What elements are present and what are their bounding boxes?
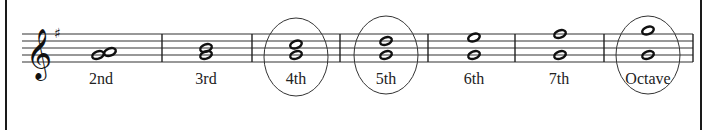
label-7th: 7th xyxy=(549,70,569,87)
interval-staff: 𝄞 ♯ 2nd 3rd 4th 5th 6th 7th Octave xyxy=(0,0,714,130)
label-2nd: 2nd xyxy=(89,70,113,87)
treble-clef-icon: 𝄞 xyxy=(26,27,52,81)
label-octave: Octave xyxy=(625,70,670,87)
label-6th: 6th xyxy=(464,70,484,87)
sharp-icon: ♯ xyxy=(54,25,61,41)
label-5th: 5th xyxy=(376,70,396,87)
label-4th: 4th xyxy=(286,70,306,87)
label-3rd: 3rd xyxy=(195,70,216,87)
